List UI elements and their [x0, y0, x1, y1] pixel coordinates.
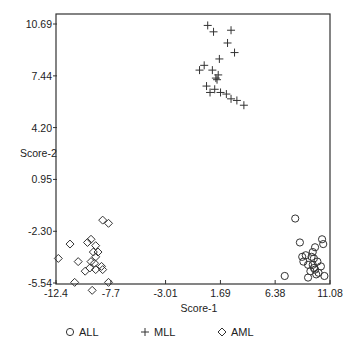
y-tick-label: 10.69: [26, 18, 52, 30]
all-point: [281, 272, 288, 279]
aml-point: [81, 267, 89, 275]
mll-point: [227, 26, 235, 34]
mll-point: [210, 28, 218, 36]
y-tick-label: -5.54: [28, 277, 52, 289]
x-tick-label: -3.01: [154, 287, 178, 299]
aml-point: [66, 240, 74, 248]
mll-point: [215, 55, 223, 63]
mll-point: [196, 66, 204, 74]
legend-label: MLL: [154, 326, 175, 338]
circle-icon: [66, 328, 73, 335]
data-points: [54, 21, 328, 294]
all-point: [321, 272, 328, 279]
all-point: [296, 239, 303, 246]
legend: ALLMLLAML: [66, 326, 253, 338]
legend-label: AML: [231, 326, 254, 338]
series-mll: [196, 21, 248, 109]
mll-point: [208, 66, 216, 74]
all-point: [320, 240, 327, 247]
diamond-icon: [218, 328, 226, 336]
all-point: [318, 236, 325, 243]
mll-point: [203, 82, 211, 90]
aml-point: [74, 258, 82, 266]
x-tick-label: 1.69: [210, 287, 231, 299]
series-aml: [54, 216, 112, 294]
plus-icon: [141, 328, 149, 336]
y-tick-label: 0.95: [32, 173, 53, 185]
mll-point: [240, 101, 248, 109]
all-point: [313, 271, 320, 278]
mll-point: [231, 49, 239, 57]
aml-point: [88, 286, 96, 294]
mll-point: [204, 21, 212, 29]
y-axis-title: Score-2: [20, 147, 57, 159]
mll-point: [213, 76, 221, 84]
mll-point: [224, 39, 232, 47]
mll-point: [227, 95, 235, 103]
legend-item-all: ALL: [66, 326, 98, 338]
legend-label: ALL: [79, 326, 99, 338]
mll-point: [233, 96, 241, 104]
y-tick-label: 4.20: [32, 122, 53, 134]
x-axis-title: Score-1: [181, 302, 218, 314]
x-tick-label: 11.08: [317, 287, 343, 299]
mll-point: [200, 61, 208, 69]
aml-point: [71, 278, 79, 286]
y-tick-label: -2.30: [28, 225, 52, 237]
legend-item-mll: MLL: [141, 326, 175, 338]
all-point: [304, 274, 311, 281]
y-tick-label: 7.44: [32, 70, 53, 82]
x-tick-label: -7.7: [102, 287, 120, 299]
mll-point: [222, 90, 230, 98]
legend-item-aml: AML: [218, 326, 254, 338]
series-all: [281, 215, 328, 281]
scatter-chart: -12.4-7.7-3.011.696.3811.08 10.697.444.2…: [0, 0, 355, 352]
x-tick-label: 6.38: [265, 287, 286, 299]
all-point: [292, 215, 299, 222]
